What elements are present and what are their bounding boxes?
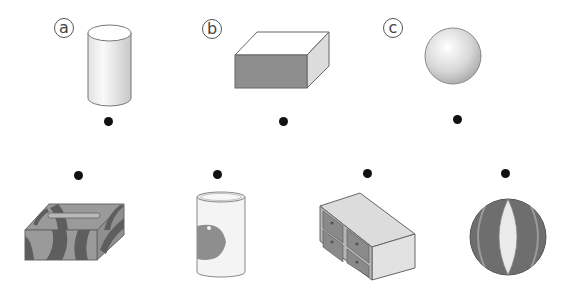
can xyxy=(197,192,245,277)
sphere-shape xyxy=(425,28,481,84)
match-dot-tissue-box[interactable] xyxy=(74,171,83,180)
match-dot-can[interactable] xyxy=(213,170,222,179)
match-dot-drawer[interactable] xyxy=(363,169,372,178)
beach-ball xyxy=(470,199,546,275)
match-dot-ball[interactable] xyxy=(501,169,510,178)
rectangular-prism-shape xyxy=(235,32,329,88)
cylinder-shape xyxy=(88,25,131,106)
match-dot-b[interactable] xyxy=(279,117,288,126)
tissue-box xyxy=(25,204,124,260)
figures xyxy=(0,0,571,292)
match-dot-c[interactable] xyxy=(453,115,462,124)
match-dot-a[interactable] xyxy=(104,117,113,126)
drawer-cabinet xyxy=(320,193,415,280)
